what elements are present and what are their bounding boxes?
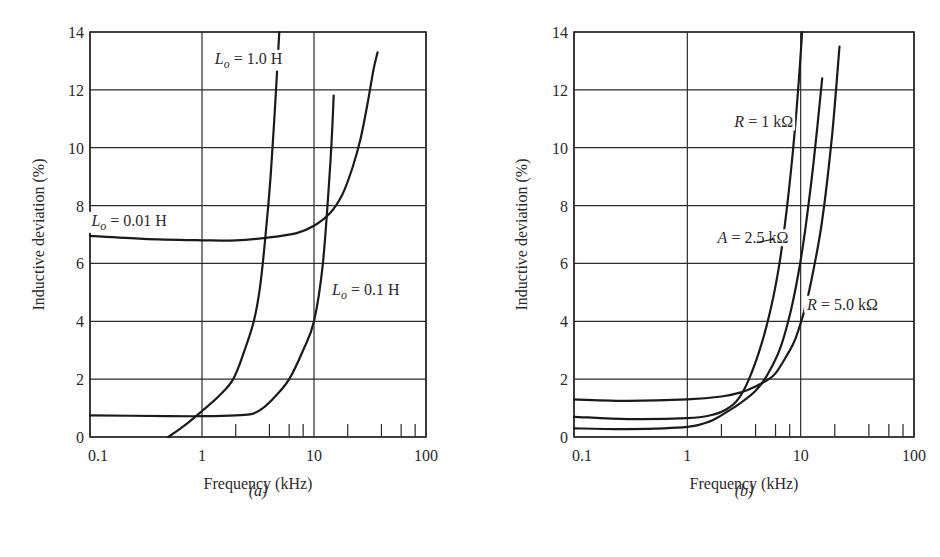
y-tick-label: 2 xyxy=(76,371,84,388)
x-tick-label: 10 xyxy=(793,447,809,464)
y-tick-label: 0 xyxy=(560,429,568,446)
x-tick-label: 100 xyxy=(902,447,926,464)
grid xyxy=(90,32,426,437)
y-tick-label: 4 xyxy=(560,313,568,330)
y-tick-label: 10 xyxy=(552,140,568,157)
curve-lo-1-0-h xyxy=(168,32,279,437)
y-tick-label: 10 xyxy=(68,140,84,157)
panel-caption: (a) xyxy=(249,482,268,500)
panel-caption: (b) xyxy=(735,482,754,500)
x-tick-label: 0.1 xyxy=(88,447,108,464)
y-tick-label: 4 xyxy=(76,313,84,330)
curve-label: R = 5.0 kΩ xyxy=(806,296,878,313)
curve-annotations: Lo = 1.0 HLo = 0.01 HLo = 0.1 H xyxy=(88,50,402,302)
y-tick-label: 14 xyxy=(552,24,568,41)
curve-a-2-5-k- xyxy=(574,78,822,429)
y-tick-labels: 02468101214 xyxy=(68,24,84,446)
x-tick-labels: 0.1110100 xyxy=(88,447,438,464)
plot-frame xyxy=(90,32,426,437)
y-tick-label: 8 xyxy=(76,198,84,215)
curve-r-5-0-k- xyxy=(574,47,840,401)
x-tick-label: 10 xyxy=(306,447,322,464)
curves xyxy=(90,32,378,437)
x-minor-ticks xyxy=(721,424,903,437)
curve-label: A = 2.5 kΩ xyxy=(717,229,789,246)
y-tick-labels: 02468101214 xyxy=(552,24,568,446)
figure: 024681012140.1110100Frequency (kHz)Induc… xyxy=(0,0,940,557)
y-tick-label: 14 xyxy=(68,24,84,41)
x-tick-label: 0.1 xyxy=(572,447,592,464)
y-tick-label: 8 xyxy=(560,198,568,215)
y-tick-label: 2 xyxy=(560,371,568,388)
y-tick-label: 0 xyxy=(76,429,84,446)
curve-lo-0-1-h xyxy=(90,96,334,417)
y-tick-label: 6 xyxy=(560,255,568,272)
y-tick-label: 12 xyxy=(552,82,568,99)
x-tick-labels: 0.1110100 xyxy=(572,447,926,464)
curve-label: R = 1 kΩ xyxy=(733,113,793,130)
chart-panel-b: 024681012140.1110100Frequency (kHz)Induc… xyxy=(513,24,926,500)
y-axis-label: Inductive deviation (%) xyxy=(513,159,531,311)
y-tick-label: 12 xyxy=(68,82,84,99)
x-minor-ticks xyxy=(236,424,415,437)
curves xyxy=(574,32,840,429)
x-tick-label: 1 xyxy=(683,447,691,464)
x-tick-label: 1 xyxy=(198,447,206,464)
y-axis-label: Inductive deviation (%) xyxy=(30,159,48,311)
x-tick-label: 100 xyxy=(414,447,438,464)
y-tick-label: 6 xyxy=(76,255,84,272)
chart-panel-a: 024681012140.1110100Frequency (kHz)Induc… xyxy=(30,24,438,500)
